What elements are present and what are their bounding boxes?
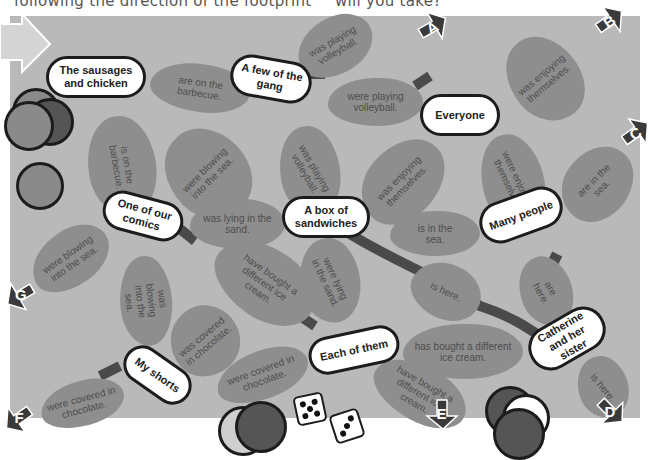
die-pip: [302, 413, 309, 420]
counter-piece[interactable]: [4, 101, 54, 151]
start-arrow-icon: [0, 14, 60, 74]
footprint-is-in-the-sea[interactable]: is in the sea.: [390, 211, 480, 256]
instruction-text-right: will you take?: [335, 0, 441, 10]
node-a-box-of-sandwiches[interactable]: A box of sandwiches: [282, 196, 370, 238]
die-five[interactable]: [292, 391, 328, 427]
counter-piece[interactable]: [16, 162, 64, 210]
game-board: are on the barbecue. was playing volleyb…: [10, 16, 640, 418]
die-pip: [306, 405, 313, 412]
die-pip: [343, 422, 351, 430]
footprint-were-playing-volleyball[interactable]: were playing volleyball.: [328, 78, 423, 126]
die-pip: [299, 401, 306, 408]
exit-arrow-e[interactable]: E: [425, 396, 459, 430]
node-the-sausages-and-chicken[interactable]: The sausages and chicken: [46, 56, 146, 98]
die-pip: [347, 415, 355, 423]
counter-piece[interactable]: [493, 408, 545, 460]
node-everyone[interactable]: Everyone: [420, 94, 500, 136]
die-pip: [311, 398, 318, 405]
die-pip: [314, 410, 321, 417]
die-pip: [339, 430, 347, 438]
instruction-text-left: following the direction of the footprint: [14, 0, 311, 10]
counter-piece[interactable]: [235, 401, 287, 453]
